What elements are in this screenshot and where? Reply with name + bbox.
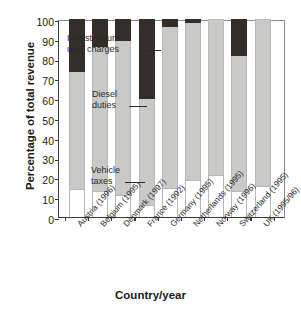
- y-tick-70: 70: [42, 71, 59, 89]
- y-tick-100: 100: [36, 12, 59, 30]
- annotation-vehicle: Vehicle taxes: [91, 165, 120, 187]
- y-tick-10: 10: [42, 190, 59, 208]
- bar-segment-diesel: [185, 23, 201, 180]
- bar-segment-infra: [231, 19, 247, 56]
- bar-segment-diesel: [255, 19, 271, 186]
- bar-segment-diesel: [208, 19, 224, 175]
- x-axis-title: Country/year: [0, 289, 301, 301]
- y-tick-30: 30: [42, 151, 59, 169]
- leader-line-infrastructures: [143, 50, 161, 51]
- bar-segment-diesel: [69, 72, 85, 189]
- y-tick-40: 40: [42, 131, 59, 149]
- y-tick-mark: [55, 219, 59, 220]
- y-axis-title: Percentage of total revenue: [24, 16, 36, 216]
- x-tick-mark-0: [65, 217, 66, 221]
- bar-segment-infra: [139, 19, 155, 99]
- y-tick-50: 50: [42, 111, 59, 129]
- y-tick-90: 90: [42, 32, 59, 50]
- x-axis-labels: Austria (1996)Belgium (1995)Denmark (199…: [58, 222, 298, 282]
- y-tick-60: 60: [42, 91, 59, 109]
- stacked-bar-chart: Percentage of total revenue 100908070605…: [0, 0, 301, 317]
- annotation-infrastructures: Infrastructures user charges: [67, 33, 125, 55]
- bar-segment-infra: [162, 19, 178, 27]
- y-tick-80: 80: [42, 52, 59, 70]
- leader-line-diesel: [129, 106, 147, 107]
- y-tick-20: 20: [42, 170, 59, 188]
- bar-segment-diesel: [162, 27, 178, 188]
- annotation-diesel: Diesel duties: [92, 89, 117, 111]
